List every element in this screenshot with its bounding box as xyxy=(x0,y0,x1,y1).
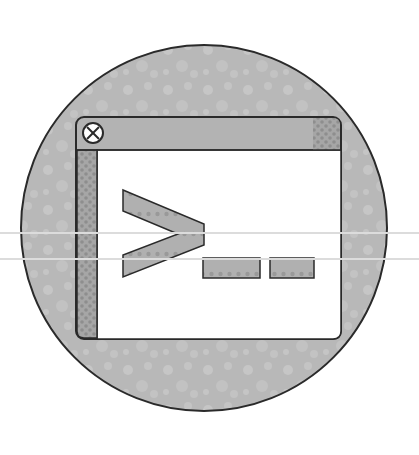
guide-line xyxy=(0,232,419,234)
window-sidebar xyxy=(77,150,97,338)
window-corner-block xyxy=(313,118,340,150)
guide-line xyxy=(0,258,419,260)
cursor-underscore-icon xyxy=(203,258,314,278)
close-icon xyxy=(83,123,103,143)
terminal-window xyxy=(76,117,341,339)
